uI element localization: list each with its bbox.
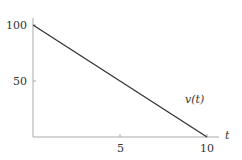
- chart-canvas: [0, 0, 242, 160]
- x-axis-label: t: [225, 130, 229, 141]
- x-tick-label-5: 5: [117, 143, 124, 154]
- y-tick-label-100: 100: [6, 20, 27, 31]
- x-tick-label-10: 10: [200, 143, 214, 154]
- line-chart: 100 50 5 10 t v(t): [0, 0, 242, 160]
- y-tick-label-50: 50: [13, 76, 27, 87]
- series-line-v: [33, 25, 207, 137]
- curve-label: v(t): [185, 94, 204, 105]
